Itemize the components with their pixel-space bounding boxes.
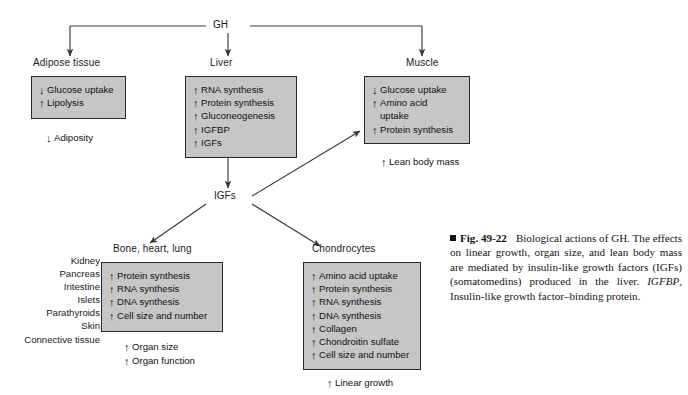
list-item: ↓Glucose uptake (39, 83, 118, 96)
bone-heart-lung-title: Bone, heart, lung (113, 243, 192, 254)
organ-list-item: Skin (0, 319, 100, 332)
bone-heart-lung-list: ↑Protein synthesis ↑RNA synthesis ↑DNA s… (109, 269, 215, 322)
caption-figure-number: Fig. 49-22 (460, 232, 507, 244)
arrow-up-icon: ↑ (109, 271, 117, 282)
list-item: ↑Protein synthesis (372, 123, 462, 136)
list-item: ↑DNA synthesis (109, 295, 215, 308)
arrow-up-icon: ↑ (193, 85, 201, 96)
arrow-down-icon: ↓ (39, 85, 47, 96)
arrow-up-icon: ↑ (311, 323, 319, 334)
igfs-hub-label: IGFs (214, 190, 236, 201)
igfs-to-bone (150, 204, 206, 243)
arrow-up-icon: ↑ (193, 124, 201, 135)
arrow-up-icon: ↑ (193, 111, 201, 122)
associated-organ-list: Kidney Pancreas Intestine Islets Parathy… (0, 254, 100, 346)
list-item: ↑IGFs (193, 136, 289, 149)
adipose-tissue-title: Adipose tissue (33, 57, 100, 68)
arrow-up-icon: ↑ (193, 137, 201, 148)
chondrocytes-list: ↑Amino acid uptake ↑Protein synthesis ↑R… (311, 269, 413, 361)
list-item: ↑RNA synthesis (109, 282, 215, 295)
muscle-list: ↓Glucose uptake ↑Amino acid uptake ↑Prot… (372, 83, 462, 136)
list-item: ↑Protein synthesis (193, 96, 289, 109)
arrow-up-icon: ↑ (193, 98, 201, 109)
list-item: ↑Lipolysis (39, 96, 118, 109)
arrow-up-icon: ↑ (372, 124, 380, 135)
arrow-up-icon: ↑ (327, 378, 335, 389)
list-item: ↑Amino acid (372, 96, 462, 109)
liver-box: ↑RNA synthesis ↑Protein synthesis ↑Gluco… (185, 76, 297, 158)
list-item: ↓Glucose uptake (372, 83, 462, 96)
arrow-up-icon: ↑ (311, 297, 319, 308)
list-item: ↑Gluconeogenesis (193, 109, 289, 122)
arrow-up-icon: ↑ (372, 98, 380, 109)
list-item: ↑RNA synthesis (193, 83, 289, 96)
muscle-box: ↓Glucose uptake ↑Amino acid uptake ↑Prot… (364, 76, 470, 144)
bone-heart-lung-box: ↑Protein synthesis ↑RNA synthesis ↑DNA s… (101, 262, 223, 332)
arrow-up-icon: ↑ (109, 310, 117, 321)
caption-bullet-square (450, 235, 456, 241)
caption-lead: Biological actions of GH. The (516, 232, 650, 244)
list-item: ↑RNA synthesis (311, 295, 413, 308)
arrow-up-icon: ↑ (311, 337, 319, 348)
arrow-up-icon: ↑ (381, 157, 389, 168)
muscle-title: Muscle (406, 57, 439, 68)
adipose-tissue-box: ↓Glucose uptake ↑Lipolysis (31, 76, 126, 119)
liver-title: Liver (210, 57, 232, 68)
arrow-up-icon: ↑ (39, 98, 47, 109)
list-item: ↑Protein synthesis (311, 282, 413, 295)
igfs-to-chondrocytes (252, 204, 320, 246)
arrow-up-icon: ↑ (311, 310, 319, 321)
figure-caption: Fig. 49-22Biological actions of GH. The … (450, 231, 682, 303)
muscle-outcome: ↑Lean body mass (381, 155, 459, 168)
list-item: ↑Cell size and number (109, 309, 215, 322)
organ-list-item: Kidney (0, 254, 100, 267)
adipose-outcome: ↓Adiposity (46, 131, 93, 144)
organ-list-item: Pancreas (0, 267, 100, 280)
list-item: ↑IGFBP (193, 123, 289, 136)
arrow-up-icon: ↑ (124, 356, 132, 367)
gh-label: GH (213, 19, 228, 30)
bone-outcome-organ-function: ↑Organ function (124, 354, 195, 367)
arrow-down-icon: ↓ (372, 85, 380, 96)
chondrocytes-title: Chondrocytes (312, 243, 376, 254)
organ-list-item: Parathyroids (0, 306, 100, 319)
list-item: ↑Chondroitin sulfate (311, 335, 413, 348)
organ-list-item: Islets (0, 293, 100, 306)
list-item: ↑DNA synthesis (311, 309, 413, 322)
arrow-up-icon: ↑ (124, 342, 132, 353)
chondrocytes-outcome: ↑Linear growth (327, 376, 393, 389)
adipose-tissue-list: ↓Glucose uptake ↑Lipolysis (39, 83, 118, 109)
arrow-down-icon: ↓ (46, 133, 54, 144)
arrow-up-icon: ↑ (311, 284, 319, 295)
bone-outcome-organ-size: ↑Organ size (124, 340, 178, 353)
list-item: ↑Collagen (311, 322, 413, 335)
arrow-up-icon: ↑ (109, 284, 117, 295)
list-item: ↑Cell size and number (311, 348, 413, 361)
chondrocytes-box: ↑Amino acid uptake ↑Protein synthesis ↑R… (303, 262, 421, 370)
list-item: ↑Amino acid uptake (311, 269, 413, 282)
caption-italic-term: IGFBP (647, 275, 679, 287)
list-item: ↑Protein synthesis (109, 269, 215, 282)
arrow-up-icon: ↑ (109, 297, 117, 308)
organ-list-item: Intestine (0, 280, 100, 293)
arrow-up-icon: ↑ (311, 271, 319, 282)
organ-list-item: Connective tissue (0, 333, 100, 346)
arrow-up-icon: ↑ (311, 350, 319, 361)
list-item-continuation: uptake (372, 109, 462, 122)
liver-list: ↑RNA synthesis ↑Protein synthesis ↑Gluco… (193, 83, 289, 149)
